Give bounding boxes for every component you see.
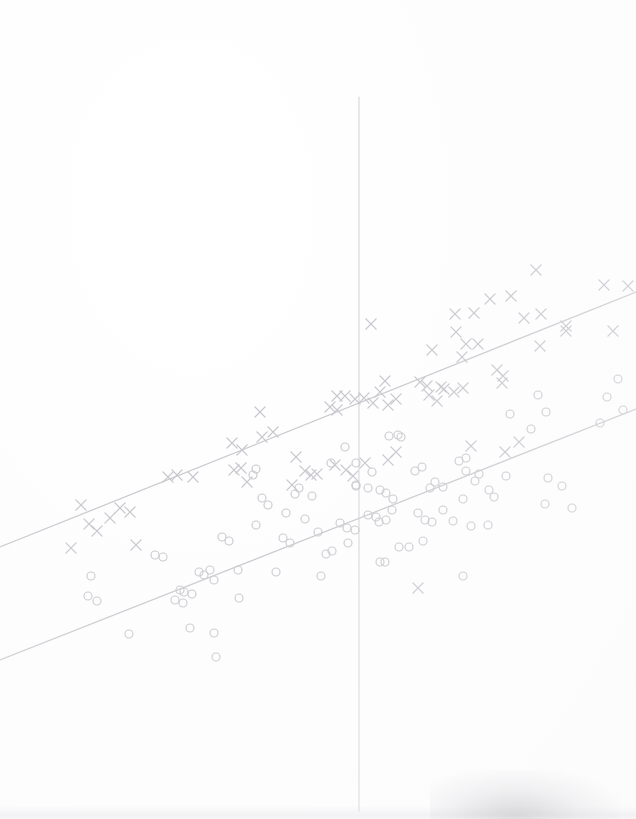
data-point-cross xyxy=(449,387,459,397)
data-point-circle xyxy=(351,526,359,534)
data-point-cross xyxy=(458,383,468,393)
data-point-cross xyxy=(561,321,571,331)
data-point-cross xyxy=(413,583,423,593)
data-point-cross xyxy=(92,526,102,536)
data-point-circle xyxy=(264,501,272,509)
data-point-cross xyxy=(115,503,125,513)
data-point-cross xyxy=(561,326,571,336)
data-point-circle xyxy=(431,478,439,486)
data-point-cross xyxy=(125,507,135,517)
data-point-cross xyxy=(466,441,476,451)
data-point-circle xyxy=(490,493,498,501)
data-point-cross xyxy=(514,437,524,447)
data-point-cross xyxy=(366,319,376,329)
data-point-circle xyxy=(506,410,514,418)
data-point-cross xyxy=(375,387,385,397)
data-point-cross xyxy=(257,432,267,442)
data-point-circle xyxy=(395,543,403,551)
data-point-cross xyxy=(255,407,265,417)
data-point-cross xyxy=(341,465,351,475)
data-point-cross xyxy=(312,469,322,479)
data-point-circle xyxy=(84,592,92,600)
data-point-circle xyxy=(159,553,167,561)
data-point-cross xyxy=(236,463,246,473)
data-point-circle xyxy=(210,576,218,584)
data-markers-layer xyxy=(66,265,633,661)
data-point-cross xyxy=(300,466,310,476)
data-point-circle xyxy=(462,467,470,475)
data-point-cross xyxy=(439,384,449,394)
circle-group xyxy=(84,375,627,661)
upper-regression-line xyxy=(0,292,636,547)
data-point-circle xyxy=(252,521,260,529)
scatter-plot-figure xyxy=(0,0,636,819)
data-point-circle xyxy=(568,504,576,512)
data-point-circle xyxy=(212,653,220,661)
data-point-circle xyxy=(484,521,492,529)
data-point-circle xyxy=(279,534,287,542)
data-point-cross xyxy=(76,500,86,510)
data-point-circle xyxy=(179,599,187,607)
data-point-cross xyxy=(506,291,516,301)
data-point-circle xyxy=(502,472,510,480)
data-point-cross xyxy=(268,427,278,437)
data-point-cross xyxy=(105,513,115,523)
data-point-cross xyxy=(188,472,198,482)
data-point-circle xyxy=(534,391,542,399)
data-point-circle xyxy=(151,551,159,559)
data-point-cross xyxy=(451,327,461,337)
data-point-cross xyxy=(500,447,510,457)
data-point-circle xyxy=(382,516,390,524)
data-point-circle xyxy=(389,495,397,503)
data-point-cross xyxy=(531,265,541,275)
data-point-cross xyxy=(229,465,239,475)
data-point-circle xyxy=(459,495,467,503)
data-point-circle xyxy=(388,506,396,514)
data-point-circle xyxy=(462,454,470,462)
data-point-cross xyxy=(237,445,247,455)
data-point-circle xyxy=(485,486,493,494)
data-point-cross xyxy=(457,352,467,362)
data-point-circle xyxy=(418,463,426,471)
data-point-cross xyxy=(383,400,393,410)
data-point-circle xyxy=(272,568,280,576)
data-point-cross xyxy=(380,376,390,386)
data-point-cross xyxy=(497,378,507,388)
data-point-circle xyxy=(527,425,535,433)
data-point-circle xyxy=(439,483,447,491)
data-point-circle xyxy=(428,518,436,526)
data-point-circle xyxy=(614,375,622,383)
data-point-cross xyxy=(535,341,545,351)
data-point-cross xyxy=(131,540,141,550)
data-point-cross xyxy=(291,452,301,462)
data-point-circle xyxy=(558,482,566,490)
data-point-cross xyxy=(427,345,437,355)
data-point-circle xyxy=(405,543,413,551)
data-point-cross xyxy=(391,394,401,404)
plot-canvas xyxy=(0,0,636,819)
data-point-circle xyxy=(467,522,475,530)
data-point-circle xyxy=(225,537,233,545)
data-point-cross xyxy=(599,280,609,290)
data-point-circle xyxy=(619,406,627,414)
data-point-circle xyxy=(93,597,101,605)
data-point-circle xyxy=(341,443,349,451)
data-point-cross xyxy=(450,309,460,319)
cross-group xyxy=(66,265,633,593)
data-point-circle xyxy=(291,490,299,498)
data-point-circle xyxy=(385,432,393,440)
data-point-circle xyxy=(544,474,552,482)
data-point-circle xyxy=(295,484,303,492)
data-point-circle xyxy=(301,515,309,523)
data-point-circle xyxy=(449,517,457,525)
data-point-circle xyxy=(258,494,266,502)
data-point-circle xyxy=(541,500,549,508)
data-point-circle xyxy=(125,630,133,638)
data-point-cross xyxy=(348,471,358,481)
data-point-cross xyxy=(227,438,237,448)
data-point-circle xyxy=(171,596,179,604)
data-point-cross xyxy=(485,294,495,304)
data-point-cross xyxy=(461,339,471,349)
data-point-cross xyxy=(536,309,546,319)
data-point-cross xyxy=(469,308,479,318)
